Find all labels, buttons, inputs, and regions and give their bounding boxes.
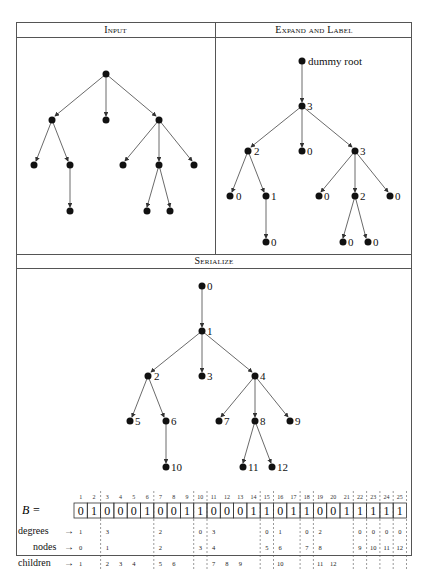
svg-text:→: → (64, 541, 74, 552)
svg-text:2: 2 (106, 560, 109, 567)
svg-text:1: 1 (79, 494, 82, 500)
svg-text:4: 4 (132, 560, 136, 567)
svg-text:14: 14 (251, 494, 257, 500)
svg-text:5: 5 (135, 415, 141, 427)
svg-text:0: 0 (236, 190, 242, 202)
svg-text:0: 0 (79, 544, 82, 551)
svg-text:0: 0 (358, 528, 361, 535)
svg-text:9: 9 (358, 544, 361, 551)
svg-text:1: 1 (357, 504, 363, 518)
svg-text:0: 0 (237, 504, 243, 518)
svg-text:2: 2 (154, 370, 160, 382)
svg-text:0: 0 (104, 504, 110, 518)
svg-text:0: 0 (305, 528, 308, 535)
svg-text:20: 20 (330, 494, 336, 500)
svg-text:7: 7 (159, 494, 162, 500)
svg-text:0: 0 (373, 236, 379, 248)
tree-diagrams: dummy root 3 2 0 3 0 1 0 2 0 0 0 0 0 (0, 0, 429, 584)
svg-text:13: 13 (237, 494, 243, 500)
svg-text:1: 1 (251, 504, 257, 518)
svg-text:1: 1 (144, 504, 150, 518)
svg-text:19: 19 (317, 494, 323, 500)
svg-text:5: 5 (159, 560, 162, 567)
svg-text:4: 4 (119, 494, 122, 500)
svg-text:6: 6 (171, 415, 177, 427)
svg-text:0: 0 (271, 236, 277, 248)
svg-text:3: 3 (207, 370, 213, 382)
svg-text:15: 15 (264, 494, 270, 500)
svg-text:3: 3 (212, 528, 215, 535)
svg-text:5: 5 (132, 494, 135, 500)
svg-text:7: 7 (305, 544, 309, 551)
svg-text:22: 22 (357, 494, 363, 500)
svg-text:6: 6 (146, 494, 149, 500)
input-tree (36, 74, 192, 207)
svg-text:11: 11 (211, 494, 217, 500)
svg-text:23: 23 (370, 494, 376, 500)
svg-text:12: 12 (277, 461, 288, 473)
svg-text:1: 1 (264, 504, 270, 518)
svg-text:1: 1 (397, 504, 403, 518)
svg-text:10: 10 (277, 560, 284, 567)
svg-text:25: 25 (397, 494, 403, 500)
svg-text:10: 10 (197, 494, 203, 500)
svg-text:8: 8 (318, 544, 321, 551)
svg-text:21: 21 (344, 494, 350, 500)
svg-text:0: 0 (131, 504, 137, 518)
svg-text:11: 11 (383, 544, 389, 551)
svg-text:2: 2 (318, 528, 321, 535)
svg-text:3: 3 (360, 145, 366, 157)
svg-text:0: 0 (330, 504, 336, 518)
svg-text:0: 0 (207, 280, 213, 292)
bitstring-label: B = (22, 503, 40, 517)
svg-text:2: 2 (159, 528, 162, 535)
svg-text:12: 12 (224, 494, 230, 500)
svg-text:7: 7 (224, 415, 230, 427)
svg-text:1: 1 (344, 504, 350, 518)
svg-text:11: 11 (317, 560, 323, 567)
svg-text:0: 0 (224, 504, 230, 518)
svg-text:0: 0 (199, 528, 202, 535)
svg-text:11: 11 (248, 461, 259, 473)
svg-text:3: 3 (307, 100, 313, 112)
svg-text:2: 2 (254, 145, 260, 157)
svg-text:0: 0 (398, 528, 401, 535)
svg-text:2: 2 (360, 190, 366, 202)
svg-text:1: 1 (304, 504, 310, 518)
svg-text:0: 0 (348, 236, 354, 248)
degrees-row-label: degrees (18, 525, 49, 536)
svg-text:6: 6 (279, 544, 283, 551)
svg-text:1: 1 (79, 560, 82, 567)
svg-text:8: 8 (260, 415, 266, 427)
svg-text:0: 0 (317, 504, 323, 518)
svg-text:0: 0 (385, 528, 388, 535)
svg-text:0: 0 (211, 504, 217, 518)
svg-text:3: 3 (119, 560, 122, 567)
svg-text:1: 1 (197, 504, 203, 518)
svg-text:0: 0 (118, 504, 124, 518)
svg-text:8: 8 (225, 560, 228, 567)
svg-text:12: 12 (397, 544, 404, 551)
svg-text:10: 10 (370, 544, 377, 551)
svg-text:1: 1 (370, 504, 376, 518)
dummy-root-label: dummy root (308, 55, 362, 67)
svg-text:1: 1 (279, 528, 282, 535)
svg-text:0: 0 (307, 145, 313, 157)
svg-text:0: 0 (171, 504, 177, 518)
svg-text:18: 18 (304, 494, 310, 500)
svg-text:0: 0 (277, 504, 283, 518)
svg-text:12: 12 (330, 560, 337, 567)
svg-text:8: 8 (172, 494, 175, 500)
children-row-label: children (18, 557, 51, 568)
svg-text:→: → (64, 557, 74, 568)
svg-text:9: 9 (295, 415, 301, 427)
svg-text:→: → (64, 525, 74, 536)
svg-text:9: 9 (239, 560, 242, 567)
svg-text:16: 16 (277, 494, 283, 500)
svg-text:0: 0 (78, 504, 84, 518)
svg-text:0: 0 (324, 190, 330, 202)
svg-text:3: 3 (106, 528, 109, 535)
svg-text:2: 2 (92, 494, 95, 500)
svg-text:1: 1 (290, 504, 296, 518)
svg-text:6: 6 (172, 560, 176, 567)
